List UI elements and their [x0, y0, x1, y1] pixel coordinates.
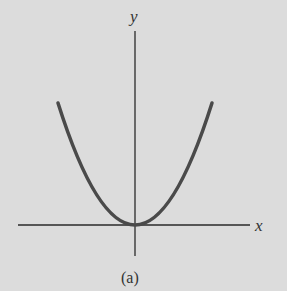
y-axis-label: y — [128, 7, 138, 26]
parabola-figure: y x (a) — [0, 0, 287, 291]
figure-caption: (a) — [121, 269, 139, 287]
x-axis-label: x — [254, 216, 263, 235]
